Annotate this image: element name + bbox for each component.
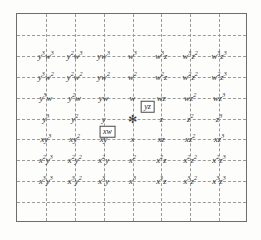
lattice-cell-label: x2z3 [212, 156, 226, 165]
lattice-cell-label: x3z [156, 177, 166, 186]
lattice-cell-label: x3y3 [39, 177, 53, 186]
monomial-lattice-diagram: y3w3y2w3yw3w3w3zw3z2w3z3y3w2y2w2yw2w2w2z… [0, 0, 261, 240]
lattice-cell-label: w3z3 [211, 52, 226, 61]
lattice-cell-label: xz3 [214, 135, 224, 144]
lattice-cell-label: y2w2 [67, 72, 83, 81]
lattice-cell-label: w2z [155, 72, 167, 81]
lattice-cell-label: y [102, 114, 106, 123]
lattice-cell-label: z2 [187, 114, 194, 123]
lattice-cell-label: x2z2 [183, 156, 197, 165]
lattice-cell-label: y2 [71, 114, 78, 123]
lattice-cell-label: y2w [68, 93, 81, 102]
lattice-cell-label: y3w2 [38, 72, 54, 81]
lattice-cell-label: x2y3 [39, 156, 53, 165]
lattice-cell-label: z [160, 114, 163, 123]
lattice-cell-label: w2 [128, 72, 137, 81]
lattice-cell-label: x2y2 [68, 156, 82, 165]
lattice-cell-label: wz2 [184, 93, 196, 102]
annotation-box-yz[interactable]: yz [140, 100, 155, 113]
lattice-cell-label: w3z [155, 52, 167, 61]
lattice-cell-label: x2 [129, 156, 136, 165]
grid-line-horizontal [17, 35, 246, 36]
lattice-cell-label: y3w [39, 93, 52, 102]
lattice-cell-label: x [131, 135, 135, 144]
lattice-cell-label: yw2 [97, 72, 110, 81]
lattice-cell-label: wz3 [213, 93, 225, 102]
lattice-cell-label: xz2 [185, 135, 195, 144]
lattice-cell-label: yw [99, 93, 109, 102]
lattice-cell-label: z3 [216, 114, 223, 123]
lattice-cell-label: w2z2 [183, 72, 198, 81]
grid-line-horizontal [17, 202, 246, 203]
lattice-cell-label: yw3 [97, 52, 110, 61]
lattice-cell-label: w3 [128, 52, 137, 61]
lattice-cell-label: x3 [129, 177, 136, 186]
lattice-cell-label: x3y2 [68, 177, 82, 186]
lattice-cell-label: x3z2 [183, 177, 197, 186]
origin-star-icon: ✻ [128, 113, 137, 124]
lattice-cell-label: x3y [98, 177, 109, 186]
lattice-cell-label: xy3 [40, 135, 51, 144]
lattice-cell-label: xy2 [69, 135, 80, 144]
annotation-box-xw[interactable]: xw [99, 125, 116, 138]
lattice-cell-label: w2z3 [211, 72, 226, 81]
lattice-cell-label: x2z [156, 156, 166, 165]
lattice-cell-label: y3 [42, 114, 49, 123]
lattice-cell-label: w3z2 [183, 52, 198, 61]
lattice-cell-label: y3w3 [38, 52, 54, 61]
lattice-cell-label: x3z3 [212, 177, 226, 186]
lattice-cell-label: y2w3 [67, 52, 83, 61]
lattice-cell-label: x2y [98, 156, 109, 165]
lattice-cell-label: wz [157, 93, 166, 102]
lattice-cell-label: w [130, 93, 136, 102]
lattice-cell-label: xz [158, 135, 165, 144]
lattice-frame: y3w3y2w3yw3w3w3zw3z2w3z3y3w2y2w2yw2w2w2z… [16, 13, 247, 222]
